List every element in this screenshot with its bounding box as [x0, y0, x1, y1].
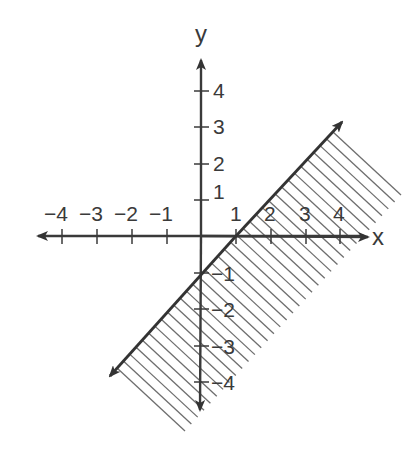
x-tick-label: −1 — [149, 202, 173, 225]
y-tick-label: −4 — [211, 371, 235, 394]
x-tick-label: −4 — [44, 202, 68, 225]
x-tick-label: 2 — [264, 202, 276, 225]
x-axis-label: x — [372, 223, 384, 250]
x-tick-label: −3 — [79, 202, 103, 225]
y-tick-label: 1 — [213, 180, 225, 203]
y-axis-label: y — [195, 20, 207, 47]
y-tick-label: 3 — [213, 115, 225, 138]
y-tick-label: −1 — [211, 262, 235, 285]
x-tick-label: 4 — [333, 202, 345, 225]
x-tick-label: 3 — [299, 202, 311, 225]
y-tick-label: −3 — [211, 335, 235, 358]
y-tick-label: −2 — [211, 298, 235, 321]
x-axis-right-arrow — [200, 236, 368, 237]
coordinate-plane: y x −4 −3 −2 −1 1 2 3 4 4 3 2 1 −1 −2 −3… — [0, 0, 419, 451]
x-tick-label: 1 — [230, 202, 242, 225]
shaded-region-hatch — [117, 132, 401, 431]
x-tick-label: −2 — [114, 202, 138, 225]
y-axis-down-arrow — [200, 236, 201, 410]
y-tick-label: 2 — [213, 152, 225, 175]
y-tick-label: 4 — [213, 79, 225, 102]
x-tick-labels: −4 −3 −2 −1 1 2 3 4 — [44, 202, 345, 225]
